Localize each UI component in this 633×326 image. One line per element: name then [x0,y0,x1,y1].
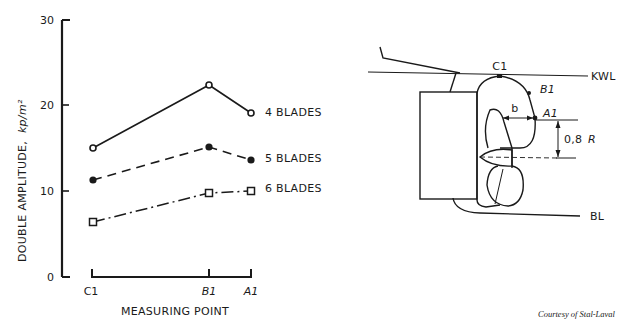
data-point [247,156,254,163]
bl-line [453,198,580,216]
measuring-point-c1-marker [497,74,502,78]
data-point [206,82,212,88]
strut [450,73,456,92]
label-dim-unit: R [588,133,596,146]
x-tick-label-b1: B1 [202,285,217,298]
data-point [205,143,212,150]
data-point [206,190,213,197]
data-point [248,110,254,116]
label-kwl: KWL [591,70,616,83]
kwl-line [368,72,588,76]
y-tick-label: 10 [40,185,54,198]
label-a1: A1 [542,107,558,120]
blade-line [495,169,503,204]
shaft-centerline [480,157,558,158]
chart: 30 20 10 0 DOUBLE AMPLITUDE, kp/m² C1 B1… [16,14,322,318]
propeller-blade-lower [487,166,523,206]
x-axis-title: MEASURING POINT [121,305,229,318]
measuring-point-a1-marker [533,116,538,121]
credit-text: Courtesy of Stal-Laval [538,309,615,319]
label-b1: B1 [540,83,555,96]
x-tick-label-a1: A1 [243,285,259,298]
data-point [248,188,255,195]
label-c1: C1 [492,60,507,73]
diagram-labels: C1 B1 A1 b 0,8 R KWL BL [492,60,616,223]
rudder-block [420,92,477,199]
arrow-icon [556,121,561,128]
label-b: b [511,102,518,115]
legend-label-4-blades: 4 BLADES [265,106,322,119]
data-point [90,145,96,151]
data-point [90,219,97,226]
x-tick-label-c1: C1 [84,285,99,298]
arrow-icon [556,150,561,157]
measuring-point-b1-marker [527,91,531,95]
hull-line [380,47,460,73]
y-tick-label: 0 [47,271,54,284]
label-dim-value: 0,8 [564,133,582,146]
y-axis-title: DOUBLE AMPLITUDE, kp/m² [16,99,29,262]
arrow-icon [527,116,533,121]
legend-label-5-blades: 5 BLADES [265,152,322,165]
y-tick-label: 20 [40,99,54,112]
series-4-blades: 4 BLADES [90,82,322,151]
legend-label-6-blades: 6 BLADES [265,182,322,195]
y-tick-label: 30 [40,14,54,27]
series-5-blades: 5 BLADES [89,143,321,183]
series-6-blades: 6 BLADES [90,182,322,226]
propeller-diagram [368,47,588,216]
label-bl: BL [590,210,605,223]
data-point [89,176,96,183]
figure-canvas: 30 20 10 0 DOUBLE AMPLITUDE, kp/m² C1 B1… [0,0,633,326]
propeller-blade-upper [485,109,512,148]
